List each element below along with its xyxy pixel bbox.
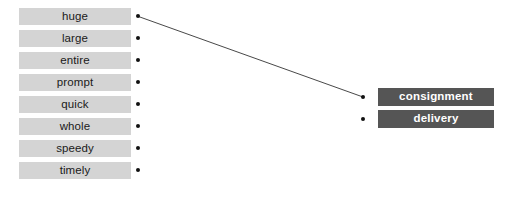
source-chip-label: speedy (56, 143, 94, 155)
source-node-dot[interactable] (136, 14, 140, 18)
source-chip-huge[interactable]: huge (19, 8, 131, 25)
alignment-diagram-canvas: huge large entire prompt quick (0, 0, 506, 203)
source-node-dot[interactable] (136, 80, 140, 84)
source-chip-entire[interactable]: entire (19, 52, 131, 69)
source-row[interactable]: prompt (19, 74, 131, 91)
source-row[interactable]: entire (19, 52, 131, 69)
source-term-column: huge large entire prompt quick (19, 8, 131, 184)
source-chip-label: prompt (57, 77, 93, 89)
source-chip-label: whole (60, 121, 91, 133)
source-chip-prompt[interactable]: prompt (19, 74, 131, 91)
target-chip-delivery[interactable]: delivery (378, 110, 494, 128)
target-node-dot[interactable] (361, 95, 365, 99)
source-chip-whole[interactable]: whole (19, 118, 131, 135)
source-chip-quick[interactable]: quick (19, 96, 131, 113)
source-chip-label: huge (62, 11, 88, 23)
source-node-dot[interactable] (136, 102, 140, 106)
source-chip-label: large (62, 33, 88, 45)
target-chip-label: consignment (399, 91, 473, 103)
source-node-dot[interactable] (136, 124, 140, 128)
source-chip-label: quick (61, 99, 88, 111)
edge-huge-to-consignment (139, 17, 364, 98)
source-chip-label: timely (60, 165, 91, 177)
source-chip-speedy[interactable]: speedy (19, 140, 131, 157)
source-node-dot[interactable] (136, 58, 140, 62)
target-node-dot[interactable] (361, 117, 365, 121)
source-node-dot[interactable] (136, 36, 140, 40)
source-row[interactable]: timely (19, 162, 131, 179)
source-chip-timely[interactable]: timely (19, 162, 131, 179)
source-node-dot[interactable] (136, 146, 140, 150)
target-chip-label: delivery (413, 113, 458, 125)
source-row[interactable]: whole (19, 118, 131, 135)
source-row[interactable]: speedy (19, 140, 131, 157)
target-chip-consignment[interactable]: consignment (378, 88, 494, 106)
source-node-dot[interactable] (136, 168, 140, 172)
source-row[interactable]: huge (19, 8, 131, 25)
source-row[interactable]: large (19, 30, 131, 47)
source-chip-large[interactable]: large (19, 30, 131, 47)
source-row[interactable]: quick (19, 96, 131, 113)
source-chip-label: entire (60, 55, 89, 67)
